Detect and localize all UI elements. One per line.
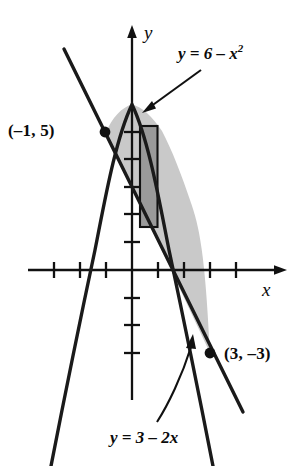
y-axis-label: y	[144, 22, 152, 44]
parabola-label-arrow-shaft	[150, 70, 201, 107]
point-label-left: (–1, 5)	[8, 121, 55, 141]
line-equation-label: y = 3 – 2x	[110, 428, 178, 448]
figure-canvas: y = 6 – x2 y = 3 – 2x (–1, 5) (3, –3) x …	[0, 0, 306, 466]
intersection-point-left	[100, 127, 111, 138]
point-label-right: (3, –3)	[224, 344, 271, 364]
parabola-equation-exponent: 2	[238, 42, 244, 54]
plot-svg	[0, 0, 306, 466]
x-axis-label: x	[262, 279, 270, 301]
parabola-equation-text: y = 6 – x	[178, 44, 238, 63]
x-axis-arrowhead	[274, 265, 287, 275]
intersection-point-right	[205, 348, 216, 359]
line-label-arrow-shaft	[157, 347, 191, 422]
parabola-equation-label: y = 6 – x2	[178, 44, 243, 64]
y-axis-arrowhead	[127, 25, 137, 38]
parabola-label-arrowhead	[142, 101, 156, 113]
